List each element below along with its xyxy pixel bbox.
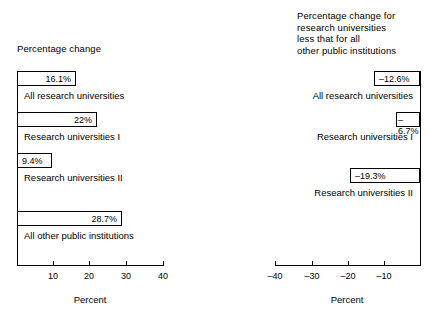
left-bar-2: 9.4% bbox=[17, 153, 52, 168]
left-tick-40 bbox=[163, 261, 164, 265]
right-tick-minus20 bbox=[348, 261, 349, 265]
left-chart-panel: Percentage change 10 20 30 40 Percent 16… bbox=[0, 0, 219, 327]
right-zero-axis-line bbox=[420, 71, 421, 265]
right-tick-label-minus20: –20 bbox=[333, 271, 363, 281]
right-tick-label-minus10: –10 bbox=[369, 271, 399, 281]
right-bar-2: –19.3% bbox=[350, 168, 420, 183]
left-bar-3: 28.7% bbox=[17, 211, 122, 226]
right-bar-label-2: Research universities II bbox=[260, 187, 413, 198]
right-tick-label-minus40: –40 bbox=[260, 271, 290, 281]
left-bar-1: 22% bbox=[17, 112, 97, 127]
left-tick-label-20: 20 bbox=[74, 271, 104, 281]
left-x-axis-line bbox=[17, 265, 164, 266]
left-chart-title: Percentage change bbox=[17, 43, 101, 55]
left-bar-0: 16.1% bbox=[17, 71, 76, 86]
right-tick-minus30 bbox=[312, 261, 313, 265]
right-chart-panel: Percentage change for research universit… bbox=[219, 0, 438, 327]
left-axis-caption: Percent bbox=[30, 294, 150, 305]
right-bar-value-0: –12.6% bbox=[379, 74, 410, 85]
left-tick-30 bbox=[126, 261, 127, 265]
right-tick-minus10 bbox=[384, 261, 385, 265]
left-tick-label-10: 10 bbox=[38, 271, 68, 281]
left-bar-label-2: Research universities II bbox=[24, 172, 123, 183]
left-bar-label-0: All research universities bbox=[24, 90, 124, 101]
left-bar-label-1: Research universities I bbox=[24, 131, 120, 142]
right-bar-label-1: Research universities I bbox=[260, 131, 413, 142]
left-bar-label-3: All other public institutions bbox=[24, 230, 134, 241]
left-zero-axis-line bbox=[17, 71, 18, 265]
left-bar-value-2: 9.4% bbox=[22, 156, 43, 167]
left-tick-label-40: 40 bbox=[148, 271, 178, 281]
right-x-axis-line bbox=[275, 265, 421, 266]
right-bar-value-2: –19.3% bbox=[355, 171, 386, 182]
right-tick-label-minus30: –30 bbox=[297, 271, 327, 281]
left-tick-label-30: 30 bbox=[111, 271, 141, 281]
left-bar-value-1: 22% bbox=[74, 115, 92, 126]
left-tick-20 bbox=[89, 261, 90, 265]
right-bar-1: –6.7% bbox=[396, 112, 420, 127]
right-bar-0: –12.6% bbox=[374, 71, 420, 86]
left-bar-value-3: 28.7% bbox=[91, 214, 117, 225]
right-chart-title: Percentage change for research universit… bbox=[297, 10, 396, 56]
left-tick-10 bbox=[53, 261, 54, 265]
right-tick-minus40 bbox=[275, 261, 276, 265]
left-bar-value-0: 16.1% bbox=[45, 74, 71, 85]
right-axis-caption: Percent bbox=[287, 294, 407, 305]
right-bar-label-0: All research universities bbox=[260, 90, 413, 101]
